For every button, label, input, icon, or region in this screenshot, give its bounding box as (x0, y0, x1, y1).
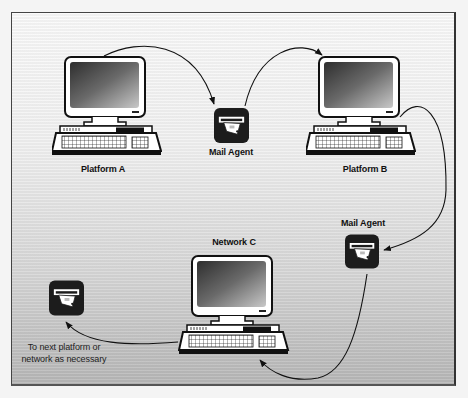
platform-b-label: Platform B (343, 164, 388, 174)
mail-agent-1-icon (214, 108, 249, 143)
mail-agent-2-icon (345, 235, 379, 269)
platform-b-computer-icon (306, 57, 415, 155)
next-hop-label: To next platform or network as necessary (19, 341, 109, 365)
diagram-canvas (0, 0, 468, 398)
network-c-label: Network C (212, 237, 256, 247)
platform-a-label: Platform A (81, 164, 125, 174)
next-hop-agent-icon (49, 281, 84, 316)
mail-agent-2-label: Mail Agent (341, 218, 385, 228)
arrow-agent-to-platform-b (245, 48, 322, 106)
platform-a-computer-icon (52, 57, 161, 155)
network-c-computer-icon (179, 256, 288, 354)
mail-agent-1-label: Mail Agent (209, 147, 253, 157)
